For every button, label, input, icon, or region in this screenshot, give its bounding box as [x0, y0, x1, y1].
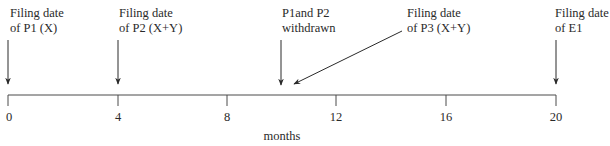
- tick-label-12: 12: [330, 110, 343, 124]
- axis-label: months: [264, 129, 301, 143]
- axis-ticks: [8, 95, 556, 106]
- arrow-p3-icon: [294, 31, 402, 84]
- tick-label-16: 16: [440, 110, 453, 124]
- event-label-e1: Filing date of E1: [555, 6, 609, 36]
- event-label-p3: Filing date of P3 (X+Y): [407, 6, 470, 36]
- tick-label-4: 4: [115, 110, 121, 124]
- event-label-p2: Filing date of P2 (X+Y): [119, 6, 182, 36]
- event-label-p1: Filing date of P1 (X): [10, 6, 64, 36]
- event-label-withdrawn: P1and P2 withdrawn: [282, 6, 335, 36]
- tick-label-8: 8: [224, 110, 230, 124]
- tick-label-20: 20: [550, 110, 563, 124]
- tick-label-0: 0: [6, 110, 12, 124]
